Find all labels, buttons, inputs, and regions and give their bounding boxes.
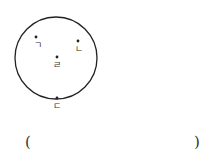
answer-close-paren: ) [194,135,200,150]
answer-blank[interactable] [36,134,191,152]
point-r-dot [56,56,59,59]
point-g-dot [35,36,38,39]
point-d-label: ㄷ [53,102,61,111]
point-n-dot [77,40,80,43]
point-g-label: ㄱ [34,41,42,50]
circle [15,17,97,99]
point-d-dot [56,97,59,100]
point-r-label: ㄹ [53,61,61,70]
point-n-label: ㄴ [75,45,83,54]
answer-open-paren: ( [25,135,31,150]
